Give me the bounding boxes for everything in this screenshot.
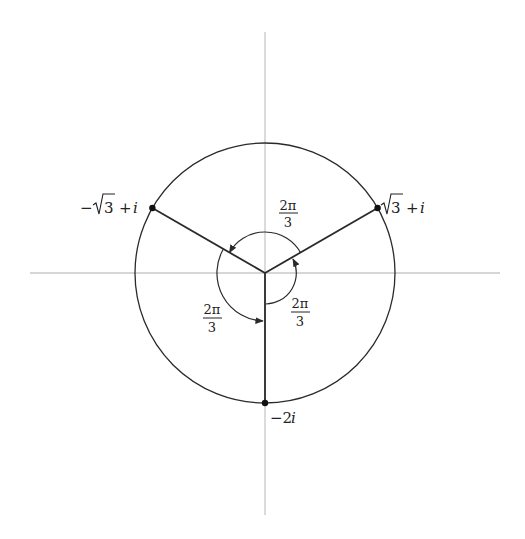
angle-arc-left [217, 249, 263, 321]
svg-text:+: + [406, 199, 419, 217]
angle-label-right: 2π 3 [291, 296, 310, 329]
label-neg-2i: −2 i [270, 409, 296, 427]
svg-text:+: + [119, 199, 132, 217]
point-neg-sqrt3-plus-i [149, 205, 155, 211]
complex-plane-diagram: 3 + i − 3 + i −2 i 2π 3 2π 3 2π 3 [0, 0, 525, 539]
svg-text:i: i [291, 409, 296, 427]
svg-text:3: 3 [104, 199, 114, 217]
angle-label-top: 2π 3 [279, 198, 298, 230]
svg-text:−: − [80, 199, 93, 217]
svg-text:−2: −2 [270, 409, 292, 427]
svg-text:2π: 2π [292, 296, 309, 311]
ray-sqrt3-plus-i [265, 208, 378, 273]
svg-text:3: 3 [296, 314, 304, 329]
svg-text:3: 3 [208, 320, 216, 335]
svg-text:3: 3 [284, 215, 292, 230]
label-neg-sqrt3-plus-i: − 3 + i [80, 194, 138, 217]
point-neg-2i [262, 400, 268, 406]
svg-text:i: i [420, 199, 425, 217]
angle-label-left: 2π 3 [203, 302, 222, 335]
point-sqrt3-plus-i [374, 205, 380, 211]
svg-text:i: i [133, 199, 138, 217]
svg-text:2π: 2π [204, 302, 221, 317]
ray-neg-sqrt3-plus-i [152, 208, 265, 273]
svg-text:3: 3 [391, 199, 401, 217]
label-sqrt3-plus-i: 3 + i [381, 194, 425, 217]
svg-text:2π: 2π [280, 198, 297, 213]
